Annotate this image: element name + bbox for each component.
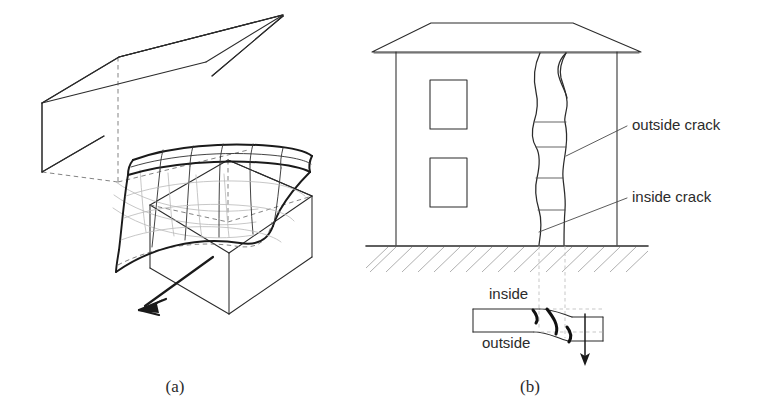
mesh-back-v1 bbox=[140, 170, 146, 232]
roof-outline bbox=[372, 23, 641, 52]
hatch-stroke bbox=[482, 247, 508, 272]
panel-b-building-crack-elevation: outside crack inside crack inside outsid… bbox=[366, 23, 721, 396]
upper-slab-front-lower-run bbox=[42, 136, 104, 172]
facade-cracks bbox=[533, 53, 568, 245]
hatch-stroke bbox=[626, 251, 648, 272]
rupture-lip-fold bbox=[128, 162, 310, 176]
hatch-stroke bbox=[530, 247, 556, 272]
hipped-roof bbox=[372, 23, 641, 53]
window-upper-left bbox=[430, 80, 467, 129]
plan-step-top bbox=[540, 309, 572, 317]
hatch-stroke bbox=[594, 247, 620, 272]
crack-inside-elevation bbox=[533, 53, 541, 245]
figure-canvas: (a) bbox=[0, 0, 765, 420]
upper-slab-front-top-long bbox=[206, 15, 283, 62]
hatch-stroke bbox=[402, 247, 428, 272]
hatch-stroke bbox=[434, 247, 460, 272]
figure-root: (a) bbox=[0, 0, 765, 420]
lower-block-top-run-right bbox=[228, 160, 312, 196]
plan-step-bottom bbox=[534, 332, 568, 341]
hanging-wall-block bbox=[42, 15, 283, 182]
footwall-block bbox=[150, 160, 312, 314]
ground-hatch-strokes bbox=[366, 247, 648, 272]
upper-slab-front-run bbox=[42, 62, 206, 103]
rupture-surface-right-edge bbox=[273, 172, 310, 226]
rupture-surface-left-edge bbox=[116, 175, 128, 272]
plan-crack-mark-center bbox=[547, 309, 557, 334]
settlement-arrow bbox=[580, 314, 590, 366]
plan-crack-mark-outside bbox=[567, 327, 571, 342]
leader-inside-crack bbox=[539, 198, 627, 232]
leader-outside-crack bbox=[566, 126, 627, 156]
hatch-stroke bbox=[546, 247, 572, 272]
lower-block-right-top-edge bbox=[229, 196, 312, 253]
upper-slab-outline bbox=[42, 15, 283, 103]
upper-block-top-face bbox=[42, 15, 283, 103]
plan-crack-mark-inside bbox=[533, 310, 537, 323]
label-outside-crack: outside crack bbox=[632, 116, 721, 133]
upper-block-hidden-edge-left bbox=[42, 172, 118, 182]
surface-grid-v4 bbox=[250, 164, 253, 234]
rupture-surface-bottom-curve bbox=[116, 226, 273, 272]
hatch-stroke bbox=[578, 247, 604, 272]
curved-rupture-mesh bbox=[113, 144, 312, 272]
hatch-stroke bbox=[498, 247, 524, 272]
surface-grid-v1 bbox=[152, 170, 160, 247]
lower-block-front-top-to-right bbox=[150, 205, 229, 253]
mesh-back-v2 bbox=[168, 173, 174, 236]
surface-grid-v3 bbox=[219, 164, 220, 237]
hatch-stroke bbox=[562, 247, 588, 272]
hatch-stroke bbox=[386, 247, 412, 272]
building-windows bbox=[430, 80, 467, 207]
ground-hatching bbox=[366, 246, 648, 272]
caption-panel-b: (b) bbox=[520, 377, 540, 396]
panel-a-fault-block-model: (a) bbox=[42, 15, 312, 396]
rupture-mesh-surface-grid bbox=[121, 164, 305, 247]
hatch-stroke bbox=[450, 247, 476, 272]
upper-block-wireframe bbox=[42, 15, 283, 172]
mesh-back-v3 bbox=[196, 175, 202, 238]
hatch-stroke bbox=[610, 247, 636, 272]
wall-plan-section: inside outside bbox=[473, 285, 603, 366]
hatch-stroke bbox=[514, 247, 540, 272]
hatch-stroke bbox=[466, 247, 492, 272]
label-outside-plan: outside bbox=[482, 334, 530, 351]
building-walls bbox=[396, 52, 617, 245]
window-lower-left bbox=[430, 158, 467, 207]
lower-block-hidden-back-left bbox=[150, 205, 228, 222]
label-inside-plan: inside bbox=[489, 285, 528, 302]
lower-block-right-face-bottom bbox=[229, 257, 312, 314]
hatch-stroke bbox=[418, 247, 444, 272]
slip-direction-arrow bbox=[138, 257, 213, 315]
upper-slab-top-right-run bbox=[119, 15, 283, 57]
upper-block-hidden-edge-right bbox=[118, 150, 248, 182]
upper-block-front-top-edge bbox=[212, 16, 283, 76]
caption-panel-a: (a) bbox=[166, 377, 185, 396]
label-inside-crack: inside crack bbox=[632, 188, 712, 205]
hatch-stroke bbox=[370, 247, 396, 272]
